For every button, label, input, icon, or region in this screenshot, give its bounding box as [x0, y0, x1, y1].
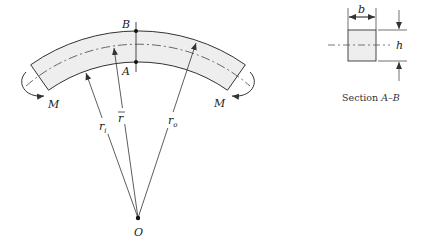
label-centroid-radius: r: [118, 112, 124, 125]
label-b: B: [121, 18, 130, 31]
point-b-dot: [134, 29, 138, 33]
label-center: O: [134, 226, 143, 239]
label-section-width: b: [358, 3, 365, 16]
label-moment-right: M: [213, 97, 226, 110]
outer-radius-line: [138, 43, 196, 218]
curved-beam-diagram: B A ri r ro O M M b h Section A–B: [0, 0, 425, 244]
section-caption: Section A–B: [342, 92, 400, 103]
label-moment-left: M: [47, 98, 60, 111]
label-section-height: h: [396, 39, 403, 52]
center-point: [136, 216, 140, 220]
inner-radius-line: [86, 73, 138, 218]
point-a-dot: [134, 60, 138, 64]
label-a: A: [121, 65, 130, 78]
curved-beam: [31, 31, 246, 90]
